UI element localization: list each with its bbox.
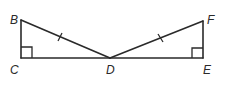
- label-e: E: [203, 63, 212, 77]
- segment-fd: [110, 21, 203, 58]
- label-f: F: [207, 13, 215, 27]
- label-d: D: [106, 63, 115, 77]
- right-angle-marker-c: [21, 47, 32, 58]
- label-b: B: [10, 13, 18, 27]
- right-angle-marker-e: [192, 48, 203, 58]
- segment-bd: [21, 20, 110, 58]
- geometry-diagram: B C D E F: [0, 0, 228, 91]
- label-c: C: [10, 63, 19, 77]
